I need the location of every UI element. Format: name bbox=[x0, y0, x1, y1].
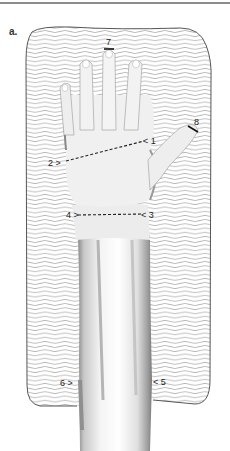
marker-7: 7 bbox=[106, 37, 111, 47]
marker-4: 4 > bbox=[66, 210, 79, 220]
marker-8: 8 bbox=[194, 117, 199, 127]
marker-1: < 1 bbox=[143, 136, 156, 146]
hand-illustration bbox=[0, 0, 230, 451]
marker-5: < 5 bbox=[153, 377, 166, 387]
marker-2: 2 > bbox=[48, 158, 61, 168]
marker-3: < 3 bbox=[141, 210, 154, 220]
marker-6: 6 > bbox=[60, 378, 73, 388]
